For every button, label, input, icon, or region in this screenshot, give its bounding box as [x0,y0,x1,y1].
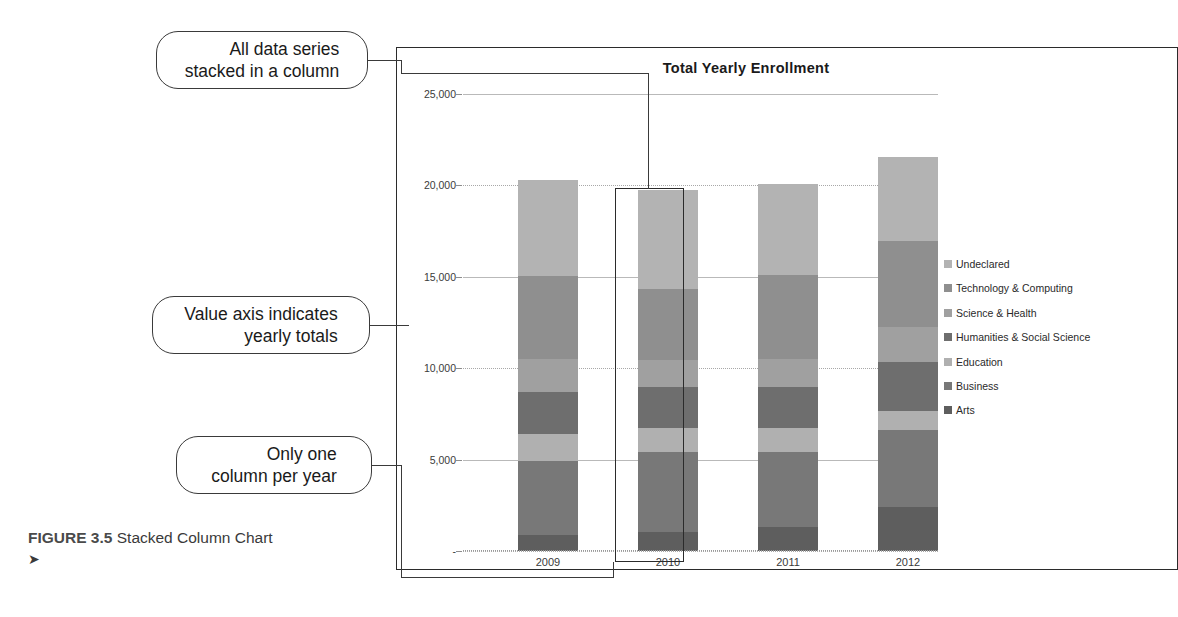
highlight-box-2010 [615,188,684,562]
category-axis [463,550,938,551]
legend-swatch-icon [944,309,952,317]
bar-segment[interactable] [878,411,938,430]
legend-swatch-icon [944,358,952,366]
callout-3-line2: column per year [211,466,336,486]
leader-line-2 [370,325,409,326]
bar-segment[interactable] [758,452,818,527]
bar-segment[interactable] [758,387,818,427]
legend-swatch-icon [944,260,952,268]
leader-line-3b [401,465,402,578]
legend-label: Technology & Computing [956,282,1073,294]
legend-item[interactable]: Undeclared [944,258,1174,270]
bar-segment[interactable] [518,461,578,535]
legend-item[interactable]: Humanities & Social Science [944,331,1174,343]
legend-item[interactable]: Technology & Computing [944,282,1174,294]
gridline-25000 [463,94,938,95]
callout-1-line2: stacked in a column [185,61,340,81]
callout-3-line1: Only one [267,444,337,464]
xtick-label-2012: 2012 [853,556,963,568]
leader-line-3a [372,465,402,466]
gridline-0 [463,551,938,552]
leader-line-3c2 [613,562,614,578]
ytick-label-5000: 5,000 [430,454,456,466]
bar-segment[interactable] [518,276,578,359]
ytick-label-20000: 20,000 [424,179,456,191]
ytick-mark-15000 [456,277,462,278]
leader-line-1d [648,73,649,189]
legend-label: Business [956,380,999,392]
callout-2-line1: Value axis indicates [184,304,337,324]
ytick-label-25000: 25,000 [424,88,456,100]
callout-2-line2: yearly totals [244,326,337,346]
legend-item[interactable]: Arts [944,404,1174,416]
ytick-mark-20000 [456,185,462,186]
legend-label: Science & Health [956,307,1037,319]
figure-number: FIGURE 3.5 [28,529,112,546]
legend-item[interactable]: Business [944,380,1174,392]
ytick-label-10000: 10,000 [424,362,456,374]
legend-item[interactable]: Education [944,356,1174,368]
bar-segment[interactable] [878,241,938,327]
chart-legend: UndeclaredTechnology & ComputingScience … [944,258,1174,429]
ytick-mark-0 [456,551,462,552]
leader-line-1a [368,60,402,61]
bar-segment[interactable] [878,327,938,362]
xtick-label-2009: 2009 [493,556,603,568]
bar-segment[interactable] [758,275,818,359]
ytick-label-15000: 15,000 [424,271,456,283]
ytick-mark-5000 [456,460,462,461]
legend-swatch-icon [944,284,952,292]
legend-item[interactable]: Science & Health [944,307,1174,319]
bar-segment[interactable] [758,184,818,275]
figure-caption-text: Stacked Column Chart [117,529,273,546]
callout-one-column-per-year: Only one column per year [176,436,372,494]
bar-segment[interactable] [878,507,938,551]
right-arrow-icon: ➤ [28,551,40,567]
legend-label: Undeclared [956,258,1010,270]
leader-line-1c [401,73,649,74]
leader-line-1b [401,60,402,74]
bar-segment[interactable] [518,535,578,551]
legend-label: Education [956,356,1003,368]
callout-value-axis: Value axis indicates yearly totals [152,296,370,354]
bar-segment[interactable] [758,359,818,387]
bar-segment[interactable] [758,428,818,453]
figure-caption: FIGURE 3.5 Stacked Column Chart ➤ [28,528,278,570]
callout-all-data-series: All data series stacked in a column [156,31,368,89]
bar-segment[interactable] [518,359,578,392]
xtick-label-2011: 2011 [733,556,843,568]
legend-swatch-icon [944,382,952,390]
bar-segment[interactable] [518,434,578,461]
bar-segment[interactable] [878,430,938,507]
bar-segment[interactable] [518,392,578,434]
callout-1-line1: All data series [229,39,339,59]
leader-line-3c [401,577,614,578]
bar-segment[interactable] [758,527,818,551]
bar-segment[interactable] [878,157,938,241]
legend-swatch-icon [944,333,952,341]
legend-swatch-icon [944,406,952,414]
legend-label: Arts [956,404,975,416]
value-axis: -5,00010,00015,00020,00025,000 [398,94,456,551]
plot-area: 2009201020112012 [463,94,938,551]
figure-page: Total Yearly Enrollment -5,00010,00015,0… [0,0,1178,617]
bar-segment[interactable] [878,362,938,411]
bar-segment[interactable] [518,180,578,276]
ytick-mark-10000 [456,368,462,369]
legend-label: Humanities & Social Science [956,331,1090,343]
ytick-mark-25000 [456,94,462,95]
